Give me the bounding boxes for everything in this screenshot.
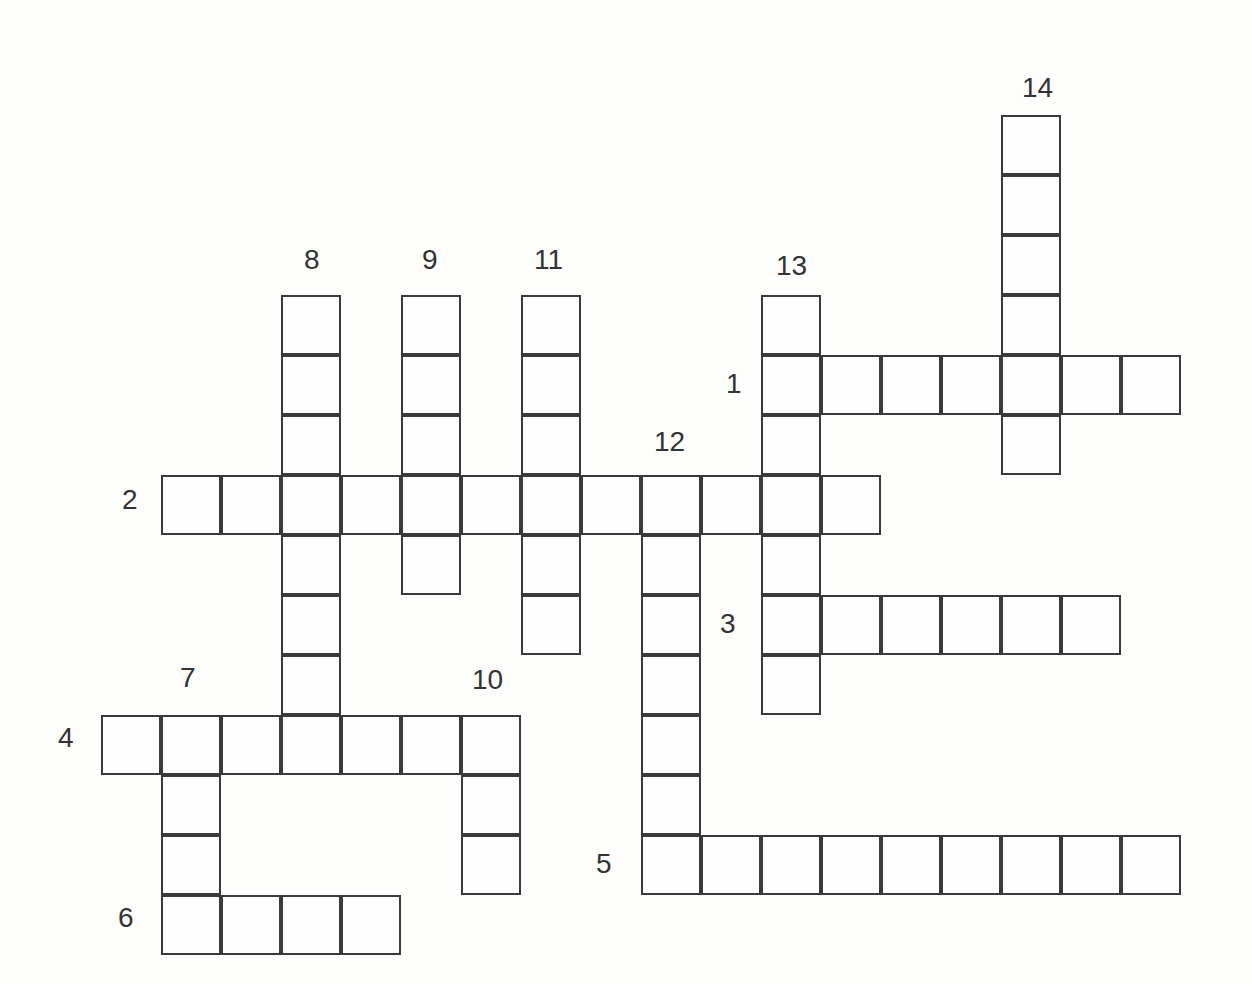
crossword-cell[interactable] (761, 535, 821, 595)
crossword-cell[interactable] (761, 595, 821, 655)
crossword-cell[interactable] (1001, 595, 1061, 655)
crossword-cell[interactable] (281, 295, 341, 355)
crossword-cell[interactable] (821, 835, 881, 895)
crossword-cell[interactable] (281, 655, 341, 715)
crossword-cell[interactable] (641, 775, 701, 835)
clue-number-14-down: 14 (1022, 74, 1053, 102)
crossword-cell[interactable] (1001, 835, 1061, 895)
clue-number-4-across: 4 (58, 724, 74, 752)
crossword-cell[interactable] (941, 355, 1001, 415)
clue-number-2-across: 2 (122, 486, 138, 514)
crossword-cell[interactable] (401, 355, 461, 415)
crossword-cell[interactable] (461, 835, 521, 895)
clue-number-1-across: 1 (726, 370, 742, 398)
clue-number-11-down: 11 (534, 246, 563, 274)
crossword-cell[interactable] (461, 775, 521, 835)
crossword-cell[interactable] (941, 595, 1001, 655)
crossword-cell[interactable] (1001, 295, 1061, 355)
crossword-cell[interactable] (701, 475, 761, 535)
crossword-cell[interactable] (281, 595, 341, 655)
crossword-cell[interactable] (401, 295, 461, 355)
clue-number-10-down: 10 (472, 666, 503, 694)
clue-number-9-down: 9 (422, 246, 438, 274)
crossword-cell[interactable] (761, 355, 821, 415)
crossword-cell[interactable] (1001, 415, 1061, 475)
clue-number-12-down: 12 (654, 428, 685, 456)
crossword-cell[interactable] (761, 295, 821, 355)
crossword-cell[interactable] (521, 355, 581, 415)
crossword-cell[interactable] (161, 895, 221, 955)
crossword-cell[interactable] (641, 655, 701, 715)
crossword-cell[interactable] (521, 295, 581, 355)
crossword-cell[interactable] (701, 835, 761, 895)
crossword-cell[interactable] (161, 715, 221, 775)
crossword-cell[interactable] (1061, 595, 1121, 655)
crossword-cell[interactable] (641, 835, 701, 895)
clue-number-6-across: 6 (118, 904, 134, 932)
crossword-cell[interactable] (281, 715, 341, 775)
crossword-cell[interactable] (821, 355, 881, 415)
crossword-cell[interactable] (401, 415, 461, 475)
clue-number-5-across: 5 (596, 850, 612, 878)
crossword-cell[interactable] (1001, 115, 1061, 175)
crossword-cell[interactable] (281, 475, 341, 535)
crossword-cell[interactable] (881, 835, 941, 895)
crossword-cell[interactable] (641, 475, 701, 535)
crossword-cell[interactable] (461, 715, 521, 775)
crossword-cell[interactable] (281, 895, 341, 955)
crossword-cell[interactable] (641, 595, 701, 655)
crossword-cell[interactable] (281, 355, 341, 415)
crossword-cell[interactable] (1121, 835, 1181, 895)
crossword-cell[interactable] (581, 475, 641, 535)
crossword-cell[interactable] (161, 835, 221, 895)
crossword-cell[interactable] (761, 655, 821, 715)
crossword-cell[interactable] (521, 535, 581, 595)
crossword-cell[interactable] (281, 415, 341, 475)
crossword-cell[interactable] (1121, 355, 1181, 415)
crossword-cell[interactable] (281, 535, 341, 595)
crossword-cell[interactable] (1061, 835, 1121, 895)
clue-number-3-across: 3 (720, 610, 736, 638)
clue-number-7-down: 7 (180, 664, 196, 692)
crossword-cell[interactable] (521, 595, 581, 655)
crossword-cell[interactable] (461, 475, 521, 535)
crossword-cell[interactable] (341, 895, 401, 955)
crossword-cell[interactable] (761, 415, 821, 475)
crossword-cell[interactable] (1001, 235, 1061, 295)
crossword-cell[interactable] (401, 475, 461, 535)
crossword-cell[interactable] (401, 535, 461, 595)
crossword-cell[interactable] (821, 595, 881, 655)
crossword-cell[interactable] (221, 715, 281, 775)
crossword-cell[interactable] (161, 475, 221, 535)
crossword-cell[interactable] (521, 415, 581, 475)
crossword-cell[interactable] (641, 715, 701, 775)
crossword-cell[interactable] (221, 895, 281, 955)
crossword-cell[interactable] (1001, 175, 1061, 235)
crossword-cell[interactable] (161, 775, 221, 835)
crossword-cell[interactable] (341, 475, 401, 535)
crossword-cell[interactable] (761, 835, 821, 895)
crossword-cell[interactable] (941, 835, 1001, 895)
clue-number-8-down: 8 (304, 246, 320, 274)
crossword-cell[interactable] (881, 355, 941, 415)
crossword-grid: 1234567891011121314 (0, 0, 1252, 984)
clue-number-13-down: 13 (776, 252, 807, 280)
crossword-cell[interactable] (1061, 355, 1121, 415)
crossword-cell[interactable] (341, 715, 401, 775)
crossword-cell[interactable] (821, 475, 881, 535)
crossword-cell[interactable] (401, 715, 461, 775)
crossword-cell[interactable] (641, 535, 701, 595)
crossword-cell[interactable] (221, 475, 281, 535)
crossword-cell[interactable] (1001, 355, 1061, 415)
crossword-cell[interactable] (761, 475, 821, 535)
crossword-cell[interactable] (521, 475, 581, 535)
crossword-cell[interactable] (881, 595, 941, 655)
crossword-cell[interactable] (101, 715, 161, 775)
